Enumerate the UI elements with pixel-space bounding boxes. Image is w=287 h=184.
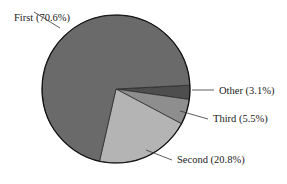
label-first: First (70.6%) [14, 12, 71, 24]
pie-slices [42, 15, 190, 163]
pie-chart: First (70.6%) Second (20.8%) Third (5.5%… [0, 0, 287, 184]
label-other: Other (3.1%) [219, 85, 275, 97]
label-third: Third (5.5%) [213, 113, 268, 125]
label-second: Second (20.8%) [177, 154, 245, 166]
